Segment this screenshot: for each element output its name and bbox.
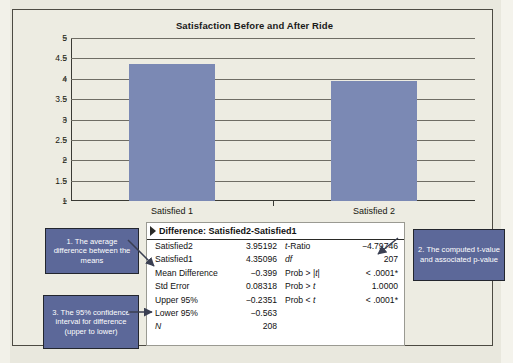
- statistic-label: Lower 95%: [155, 308, 198, 318]
- results-panel-header[interactable]: Difference: Satisfied2-Satisfied1: [147, 223, 404, 240]
- statistic-row: Satisfied14.35096: [155, 254, 277, 267]
- statistic-label: Std Error: [155, 281, 189, 291]
- statistic-label: Satisfied2: [155, 241, 193, 251]
- y-axis-tick-mark: [63, 201, 67, 202]
- page-background: Satisfaction Before and After Ride 54.54…: [0, 0, 513, 363]
- bar: [129, 64, 215, 201]
- bar: [331, 81, 417, 201]
- statistic-value: < .0001*: [366, 295, 398, 305]
- figure-frame: Satisfaction Before and After Ride 54.54…: [12, 9, 493, 346]
- statistics-left-column: Satisfied23.95192Satisfied14.35096Mean D…: [155, 241, 277, 335]
- statistic-value: < .0001*: [366, 268, 398, 278]
- statistic-row: Std Error0.08318: [155, 281, 277, 294]
- statistic-value: 1.0000: [372, 281, 398, 291]
- triangle-right-icon[interactable]: [150, 226, 156, 236]
- statistic-label: Prob < t: [285, 295, 315, 305]
- y-axis-tick-mark: [63, 99, 67, 100]
- page-left-edge: [0, 0, 10, 363]
- statistic-value: −0.2351: [246, 295, 277, 305]
- y-axis-tick-mark: [63, 119, 67, 120]
- y-axis-tick-mark: [63, 38, 67, 39]
- statistic-row: t-Ratio−4.79746: [285, 241, 398, 254]
- y-axis-tick-labels: 54.543.532.521.51: [27, 38, 67, 201]
- statistic-row: Prob < t< .0001*: [285, 295, 398, 308]
- results-statistics-body: Satisfied23.95192Satisfied14.35096Mean D…: [147, 241, 404, 346]
- statistic-value: −4.79746: [362, 241, 398, 251]
- y-axis-tick-mark: [63, 78, 67, 79]
- statistic-label: df: [285, 254, 292, 264]
- callout-confidence-interval: 3. The 95% confidence interval for diffe…: [43, 295, 139, 349]
- chart-title: Satisfaction Before and After Ride: [27, 20, 482, 31]
- y-axis-tick-mark: [63, 58, 67, 59]
- statistic-label: t-Ratio: [285, 241, 310, 251]
- statistic-value: 3.95192: [246, 241, 277, 251]
- statistic-row: df207: [285, 254, 398, 267]
- statistic-row: Satisfied23.95192: [155, 241, 277, 254]
- statistic-value: −0.399: [250, 268, 277, 278]
- y-axis-tick-mark: [63, 160, 67, 161]
- statistic-label: Mean Difference: [155, 268, 218, 278]
- statistic-row: Prob > t1.0000: [285, 281, 398, 294]
- bar-chart: Satisfaction Before and After Ride 54.54…: [27, 16, 482, 216]
- statistic-row: Lower 95%−0.563: [155, 308, 277, 321]
- statistic-value: 207: [384, 254, 398, 264]
- x-axis-tick-label: Satisfied 2: [353, 206, 395, 216]
- x-axis-tick-label: Satisfied 1: [151, 206, 193, 216]
- difference-results-panel[interactable]: Difference: Satisfied2-Satisfied1 Satisf…: [146, 222, 405, 346]
- y-axis-tick-mark: [63, 139, 67, 140]
- callout-t-value-p-value: 2. The computed t-value and associated p…: [413, 229, 505, 281]
- statistic-label: Upper 95%: [155, 295, 198, 305]
- statistic-label: Prob > |t|: [285, 268, 320, 278]
- statistics-right-column: t-Ratio−4.79746df207Prob > |t|< .0001*Pr…: [285, 241, 398, 308]
- y-axis-tick-mark: [63, 180, 67, 181]
- statistic-row: N208: [155, 321, 277, 334]
- callout-average-difference: 1. The average difference between the me…: [45, 228, 139, 274]
- statistic-label: Prob > t: [285, 281, 315, 291]
- gridline: [71, 38, 475, 39]
- plot-area: [71, 38, 475, 201]
- statistic-value: 0.08318: [246, 281, 277, 291]
- statistic-value: 4.35096: [246, 254, 277, 264]
- statistic-label: Satisfied1: [155, 254, 193, 264]
- statistic-value: 208: [263, 321, 277, 331]
- results-panel-title: Difference: Satisfied2-Satisfied1: [159, 226, 297, 236]
- statistic-value: −0.563: [250, 308, 277, 318]
- x-axis-tick-mark: [273, 201, 274, 206]
- statistic-row: Upper 95%−0.2351: [155, 295, 277, 308]
- page-right-edge: [501, 0, 513, 363]
- statistic-row: Prob > |t|< .0001*: [285, 268, 398, 281]
- statistic-label: N: [155, 321, 161, 331]
- gridline: [71, 58, 475, 59]
- statistic-row: Mean Difference−0.399: [155, 268, 277, 281]
